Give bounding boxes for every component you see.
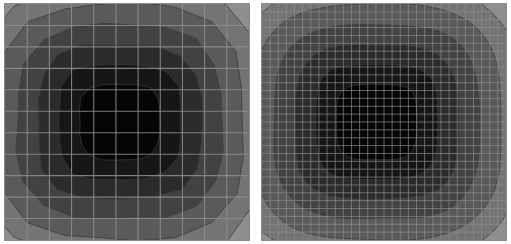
figure-canvas <box>0 0 511 244</box>
fine-mesh-contour-plot <box>261 3 507 241</box>
coarse-contour-fill-layer <box>5 4 249 240</box>
fine-contour-fill-layer <box>262 4 506 240</box>
coarse-mesh-contour-plot <box>4 3 250 241</box>
